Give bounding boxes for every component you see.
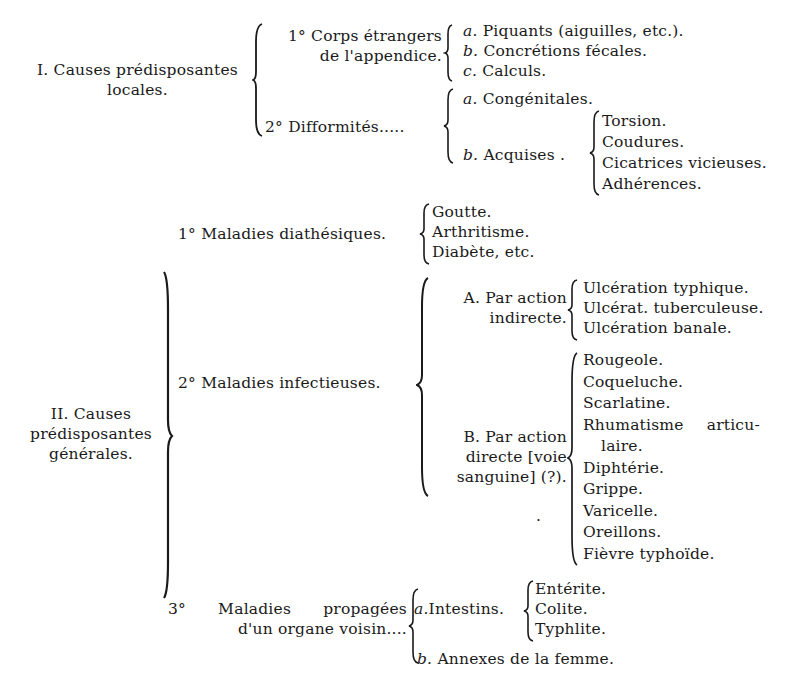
list-item: Fièvre typhoïde. [583,544,781,566]
intestins-item: a.Intestins. [414,599,504,619]
section-i-title: I. Causes prédisposantes locales. [20,60,255,100]
list-item: laire. [583,436,781,458]
list-item: Diphtérie. [583,458,781,480]
list-item: Adhérences. [602,174,767,195]
list-item: Typhlite. [535,619,606,639]
list-item: Goutte. [432,202,535,222]
list-item: Torsion. [602,111,767,132]
list-item: Grippe. [583,479,781,501]
brace-icon [160,270,174,600]
maladies-infectieuses-label: 2° Maladies infectieuses. [178,373,381,393]
list-item: Varicelle. [583,501,781,523]
difformites-label: 2° Difformités..... [265,117,405,137]
list-item: Entérite. [535,579,606,599]
list-item: Arthritisme. [432,222,535,242]
list-item: Diabète, etc. [432,242,535,262]
brace-icon [567,352,579,566]
brace-icon [567,279,579,341]
list-item: Ulcération banale. [583,318,764,338]
directe-list: Rougeole. Coqueluche. Scarlatine. Rhumat… [583,350,781,565]
par-action-indirecte-label: A. Par action indirecte. [425,288,567,328]
section-ii-title: II. Causes prédisposantes générales. [18,404,164,464]
brace-icon [589,110,601,196]
list-item: a. Piquants (aiguilles, etc.). [463,21,684,41]
corps-etrangers-label: 1° Corps étrangers de l'appendice. [262,26,442,66]
list-item: Oreillons. [583,522,781,544]
list-item: Colite. [535,599,606,619]
stray-mark: . [536,506,541,526]
list-item: Cicatrices vicieuses. [602,153,767,174]
brace-icon [523,580,535,642]
list-item: b. Concrétions fécales. [463,41,684,61]
intestins-list: Entérite. Colite. Typhlite. [535,579,606,639]
brace-icon [443,24,455,82]
maladies-diathesiques-label: 1° Maladies diathésiques. [178,224,386,244]
par-action-directe-label: B. Par action directe [voie sanguine] (?… [425,427,567,487]
list-item: Ulcération typhique. [583,278,764,298]
list-item: Coqueluche. [583,372,781,394]
list-item: c. Calculs. [463,61,684,81]
list-item: Rhumatisme articu- [583,415,781,437]
list-item: Coudures. [602,132,767,153]
corps-etrangers-list: a. Piquants (aiguilles, etc.). b. Concré… [463,21,684,81]
diathesiques-list: Goutte. Arthritisme. Diabète, etc. [432,202,535,262]
brace-icon [419,203,431,265]
list-item: Ulcérat. tuberculeuse. [583,298,764,318]
list-item: Scarlatine. [583,393,781,415]
acquises-list: Torsion. Coudures. Cicatrices vicieuses.… [602,111,767,195]
indirecte-list: Ulcération typhique. Ulcérat. tuberculeu… [583,278,764,338]
brace-icon [443,88,455,164]
annexes-item: b. Annexes de la femme. [417,649,614,669]
list-item: Rougeole. [583,350,781,372]
maladies-propagees-label: 3° Maladies propagées d'un organe voisin… [168,599,407,639]
congenitales-item: a. Congénitales. [463,89,593,109]
acquises-item: b. Acquises . [463,145,565,165]
